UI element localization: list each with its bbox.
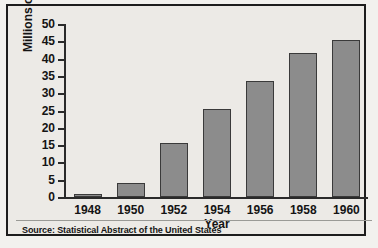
chart-figure: Millions of homes 50454035302520151050 1…: [0, 0, 378, 248]
y-axis-tick: [58, 24, 65, 26]
chart-frame: Millions of homes 50454035302520151050 1…: [6, 4, 366, 236]
y-axis-tick-label: 25: [42, 104, 55, 118]
y-axis-tick: [58, 76, 65, 78]
bar-1952: [160, 143, 188, 197]
x-axis-tick-label: 1948: [66, 203, 109, 217]
y-axis-tick: [58, 41, 65, 43]
x-axis-tick-label: 1960: [325, 203, 368, 217]
x-axis-tick-label: 1952: [152, 203, 195, 217]
y-axis-tick: [58, 93, 65, 95]
y-axis-tick: [58, 197, 65, 199]
x-axis-line: [64, 197, 368, 199]
x-axis-tick-label: 1956: [239, 203, 282, 217]
bar-slot: [109, 24, 152, 197]
bar-slot: [239, 24, 282, 197]
x-axis-tick-label: 1950: [109, 203, 152, 217]
y-axis-tick-label: 20: [42, 121, 55, 135]
y-axis-tick: [58, 59, 65, 61]
y-axis-tick-label: 50: [42, 17, 55, 31]
y-axis-tick: [58, 111, 65, 113]
bar-1954: [203, 109, 231, 197]
x-axis-tick-labels: 1948195019521954195619581960: [66, 203, 368, 217]
bar-slot: [195, 24, 238, 197]
bar-slot: [282, 24, 325, 197]
y-axis-tick-label: 15: [42, 138, 55, 152]
bar-1958: [289, 53, 317, 197]
source-divider: [16, 220, 372, 221]
y-axis-tick-label: 30: [42, 86, 55, 100]
y-axis-tick-label: 45: [42, 34, 55, 48]
bar-slot: [325, 24, 368, 197]
bar-slot: [66, 24, 109, 197]
bar-1950: [117, 183, 145, 197]
bar-1960: [332, 40, 360, 197]
y-axis-tick-label: 0: [48, 190, 55, 204]
y-axis-tick-label: 40: [42, 52, 55, 66]
bar-slot: [152, 24, 195, 197]
x-axis-tick-label: 1958: [282, 203, 325, 217]
y-axis-tick: [58, 162, 65, 164]
y-axis-tick-label: 5: [48, 173, 55, 187]
bar-1956: [246, 81, 274, 197]
y-axis-tick: [58, 180, 65, 182]
plot-area: 50454035302520151050: [64, 24, 368, 199]
y-axis-tick-label: 10: [42, 155, 55, 169]
x-axis-tick-label: 1954: [195, 203, 238, 217]
y-axis-tick-label: 35: [42, 69, 55, 83]
bar-series: [66, 24, 368, 197]
bar-1948: [74, 194, 102, 197]
source-note: Source: Statistical Abstract of the Unit…: [22, 225, 221, 235]
y-axis-title: Millions of homes: [21, 0, 35, 52]
y-axis-tick: [58, 128, 65, 130]
y-axis-tick: [58, 145, 65, 147]
